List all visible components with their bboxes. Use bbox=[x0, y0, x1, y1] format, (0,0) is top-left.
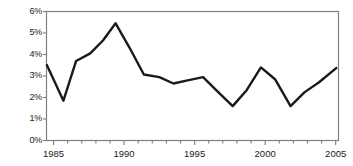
y-tick-label-6pct: 6% bbox=[14, 7, 42, 16]
plot-area bbox=[0, 0, 353, 166]
axes bbox=[47, 12, 339, 141]
plot-frame bbox=[47, 12, 339, 141]
data-series bbox=[47, 23, 338, 106]
line-chart: 0%1%2%3%4%5%6% 19851990199520002005 bbox=[0, 0, 353, 166]
axis-ticks bbox=[43, 12, 336, 146]
y-tick-label-0pct: 0% bbox=[14, 136, 42, 145]
y-tick-label-5pct: 5% bbox=[14, 28, 42, 37]
x-tick-label-1990: 1990 bbox=[104, 149, 144, 159]
x-tick-label-1985: 1985 bbox=[34, 149, 74, 159]
y-tick-label-1pct: 1% bbox=[14, 114, 42, 123]
x-tick-label-1995: 1995 bbox=[175, 149, 215, 159]
y-tick-label-4pct: 4% bbox=[14, 50, 42, 59]
y-tick-label-3pct: 3% bbox=[14, 71, 42, 80]
y-tick-label-2pct: 2% bbox=[14, 93, 42, 102]
x-tick-label-2000: 2000 bbox=[245, 149, 285, 159]
x-tick-label-2005: 2005 bbox=[316, 149, 353, 159]
series-line-series-1 bbox=[47, 23, 338, 106]
